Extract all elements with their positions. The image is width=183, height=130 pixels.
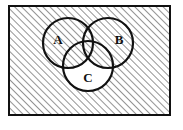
set-label-a: A	[53, 32, 63, 47]
venn-diagram-figure: A B C	[0, 0, 183, 130]
set-label-b: B	[115, 32, 124, 47]
venn-diagram-canvas: A B C	[0, 0, 183, 130]
set-label-c: C	[83, 70, 92, 85]
